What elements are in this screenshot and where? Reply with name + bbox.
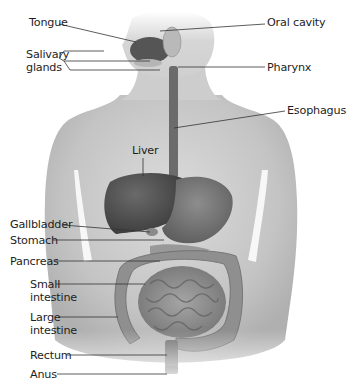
- label-oral-cavity: Oral cavity: [267, 16, 325, 29]
- digestive-system-diagram: Tongue Salivary glands Oral cavity Phary…: [0, 0, 353, 387]
- label-large-intestine: Large intestine: [30, 311, 77, 337]
- label-anus: Anus: [30, 368, 57, 381]
- label-stomach: Stomach: [10, 234, 58, 247]
- label-tongue: Tongue: [29, 16, 68, 29]
- label-pharynx: Pharynx: [267, 61, 311, 74]
- label-liver: Liver: [132, 144, 158, 157]
- label-rectum: Rectum: [30, 349, 71, 362]
- esophagus-tube: [169, 66, 178, 178]
- label-pancreas: Pancreas: [10, 255, 59, 268]
- label-small-intestine: Small intestine: [30, 278, 77, 304]
- label-gallbladder: Gallbladder: [10, 218, 72, 231]
- parotid-gland: [163, 27, 181, 57]
- label-salivary-glands: Salivary glands: [26, 48, 69, 74]
- label-esophagus: Esophagus: [287, 104, 346, 117]
- sublingual-gland: [134, 59, 162, 67]
